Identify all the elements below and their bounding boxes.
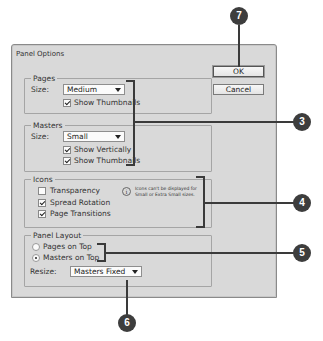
icons-group: Icons Transparency Spread Rotation Page … [24, 179, 212, 228]
spread-rotation-label: Spread Rotation [50, 198, 110, 208]
page-transitions-label: Page Transitions [50, 209, 111, 219]
pages-size-value: Medium [67, 85, 97, 94]
pages-show-thumbnails-checkbox[interactable] [63, 99, 71, 107]
pages-show-thumbnails-label: Show Thumbnails [74, 98, 140, 108]
callout-4: 4 [293, 194, 311, 212]
pages-group: Pages Size: Medium Show Thumbnails [24, 78, 212, 114]
callout-5: 5 [293, 244, 311, 262]
callout-6-leader [126, 280, 128, 316]
cancel-button[interactable]: Cancel [213, 84, 264, 95]
transparency-checkbox[interactable] [38, 187, 46, 195]
chevron-down-icon [115, 135, 121, 139]
pages-on-top-label: Pages on Top [43, 242, 92, 252]
masters-on-top-radio[interactable] [32, 254, 40, 262]
callout-3-bracket-bottom [126, 164, 135, 166]
masters-size-select[interactable]: Small [63, 131, 125, 142]
masters-show-vertically-label: Show Vertically [74, 145, 131, 155]
chevron-down-icon [115, 88, 121, 92]
chevron-down-icon [132, 270, 138, 274]
callout-3-leader [135, 121, 297, 123]
masters-on-top-label: Masters on Top [43, 253, 99, 263]
callout-4-leader [205, 202, 297, 204]
masters-size-value: Small [67, 132, 88, 141]
masters-show-vertically-checkbox[interactable] [63, 146, 71, 154]
callout-4-bracket-bottom [196, 226, 204, 228]
masters-group: Masters Size: Small Show Vertically Show… [24, 125, 212, 172]
transparency-label: Transparency [50, 186, 100, 196]
icons-note: Icons can't be displayed for Small or Ex… [135, 186, 205, 198]
pages-legend: Pages [31, 74, 57, 83]
masters-show-thumbnails-checkbox[interactable] [63, 157, 71, 165]
pages-size-select[interactable]: Medium [63, 84, 125, 95]
panel-layout-group: Panel Layout Pages on Top Masters on Top… [24, 235, 212, 287]
icons-legend: Icons [31, 175, 55, 184]
spread-rotation-checkbox[interactable] [38, 199, 46, 207]
resize-label: Resize: [30, 267, 57, 277]
dialog-title: Panel Options [16, 50, 64, 58]
callout-7-leader [238, 25, 240, 67]
resize-select[interactable]: Masters Fixed [70, 266, 142, 277]
masters-size-label: Size: [31, 132, 49, 142]
page-transitions-checkbox[interactable] [38, 210, 46, 218]
pages-size-label: Size: [31, 85, 49, 95]
callout-3-bracket-side [133, 80, 135, 166]
callout-5-bracket-bottom [97, 260, 105, 262]
panel-layout-legend: Panel Layout [31, 231, 83, 240]
callout-7: 7 [230, 7, 248, 25]
callout-5-leader [106, 252, 297, 254]
ok-button[interactable]: OK [213, 66, 264, 77]
masters-legend: Masters [31, 121, 65, 130]
callout-3: 3 [293, 113, 311, 131]
pages-on-top-radio[interactable] [32, 243, 40, 251]
info-icon: i [122, 187, 131, 196]
resize-value: Masters Fixed [74, 267, 125, 276]
panel-options-dialog: Panel Options OK Cancel Pages Size: Medi… [11, 44, 277, 298]
callout-6: 6 [118, 314, 136, 332]
